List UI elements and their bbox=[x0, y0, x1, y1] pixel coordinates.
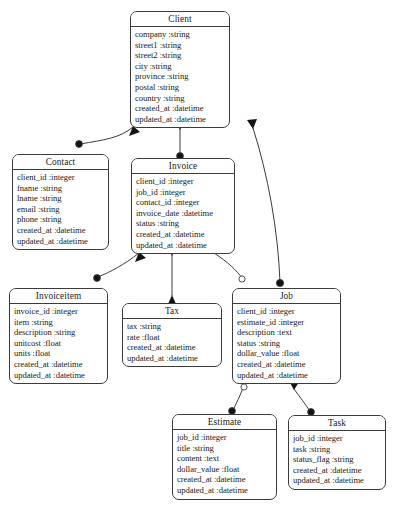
entity-job-title: Job bbox=[233, 289, 340, 304]
entity-contact[interactable]: Contact client_id :integer fname :string… bbox=[12, 154, 109, 250]
marker-dot-job bbox=[276, 279, 283, 286]
field-row: postal :string bbox=[135, 82, 229, 93]
field-row: status :string bbox=[237, 338, 340, 349]
entity-invoice-title: Invoice bbox=[132, 159, 234, 174]
marker-circle-job-topleft bbox=[239, 276, 245, 282]
edge-client-job bbox=[253, 128, 280, 282]
field-row: content :text bbox=[177, 453, 276, 464]
field-row: task :string bbox=[293, 444, 385, 455]
field-row: status :string bbox=[136, 218, 234, 229]
field-row: created_at :datetime bbox=[17, 225, 108, 236]
field-row: updated_at :datetime bbox=[135, 114, 229, 125]
field-row: lname :string bbox=[17, 193, 108, 204]
field-row: email :string bbox=[17, 204, 108, 215]
entity-tax[interactable]: Tax tax :string rate :float created_at :… bbox=[122, 303, 222, 367]
edge-job-task bbox=[294, 389, 310, 411]
field-row: updated_at :datetime bbox=[127, 353, 221, 364]
marker-dot-contact bbox=[76, 141, 83, 148]
field-row: job_id :integer bbox=[136, 187, 234, 198]
field-row: updated_at :datetime bbox=[237, 370, 340, 381]
field-row: tax :string bbox=[127, 321, 221, 332]
edge-invoice-job bbox=[214, 253, 243, 279]
field-row: created_at :datetime bbox=[293, 465, 385, 476]
edge-client-contact bbox=[80, 127, 133, 144]
field-row: rate :float bbox=[127, 332, 221, 343]
edge-invoice-invoiceitem bbox=[98, 253, 139, 277]
entity-tax-fields: tax :string rate :float created_at :date… bbox=[123, 319, 221, 366]
field-row: job_id :integer bbox=[177, 432, 276, 443]
field-row: client_id :integer bbox=[136, 176, 234, 187]
field-row: dollar_value :float bbox=[237, 348, 340, 359]
field-row: job_id :integer bbox=[293, 433, 385, 444]
field-row: province :string bbox=[135, 71, 229, 82]
entity-estimate-title: Estimate bbox=[173, 415, 276, 430]
field-row: updated_at :datetime bbox=[293, 475, 385, 486]
field-row: phone :string bbox=[17, 214, 108, 225]
field-row: status_flag :string bbox=[293, 454, 385, 465]
entity-task-fields: job_id :integer task :string status_flag… bbox=[289, 431, 385, 489]
field-row: updated_at :datetime bbox=[14, 370, 107, 381]
field-row: updated_at :datetime bbox=[177, 485, 276, 496]
marker-dot-invoiceitem bbox=[94, 275, 101, 282]
entity-task-title: Task bbox=[289, 416, 385, 431]
field-row: street1 :string bbox=[135, 40, 229, 51]
entity-estimate[interactable]: Estimate job_id :integer title :string c… bbox=[172, 414, 277, 500]
field-row: company :string bbox=[135, 29, 229, 40]
field-row: city :string bbox=[135, 61, 229, 72]
field-row: title :string bbox=[177, 443, 276, 454]
field-row: description :string bbox=[14, 327, 107, 338]
field-row: client_id :integer bbox=[17, 172, 108, 183]
entity-job-fields: client_id :integer estimate_id :integer … bbox=[233, 304, 340, 383]
field-row: units :float bbox=[14, 348, 107, 359]
entity-client-fields: company :string street1 :string street2 … bbox=[131, 27, 229, 127]
entity-contact-fields: client_id :integer fname :string lname :… bbox=[13, 170, 108, 249]
er-diagram-canvas: Client company :string street1 :string s… bbox=[0, 0, 393, 506]
field-row: client_id :integer bbox=[237, 306, 340, 317]
field-row: created_at :datetime bbox=[14, 359, 107, 370]
entity-estimate-fields: job_id :integer title :string content :t… bbox=[173, 430, 276, 499]
entity-client[interactable]: Client company :string street1 :string s… bbox=[130, 11, 230, 128]
entity-invoiceitem-fields: invoice_id :integer item :string descrip… bbox=[10, 304, 107, 383]
edge-job-estimate bbox=[233, 388, 243, 410]
entity-job[interactable]: Job client_id :integer estimate_id :inte… bbox=[232, 288, 341, 384]
entity-contact-title: Contact bbox=[13, 155, 108, 170]
field-row: created_at :datetime bbox=[136, 229, 234, 240]
entity-task[interactable]: Task job_id :integer task :string status… bbox=[288, 415, 386, 490]
field-row: item :string bbox=[14, 317, 107, 328]
entity-client-title: Client bbox=[131, 12, 229, 27]
field-row: country :string bbox=[135, 93, 229, 104]
marker-arrow-client-job bbox=[247, 119, 257, 129]
field-row: created_at :datetime bbox=[127, 342, 221, 353]
entity-invoice[interactable]: Invoice client_id :integer job_id :integ… bbox=[131, 158, 235, 254]
field-row: invoice_id :integer bbox=[14, 306, 107, 317]
field-row: dollar_value :float bbox=[177, 464, 276, 475]
field-row: invoice_date :datetime bbox=[136, 208, 234, 219]
field-row: updated_at :datetime bbox=[136, 240, 234, 251]
marker-circle-job-bottomleft bbox=[241, 384, 247, 390]
field-row: created_at :datetime bbox=[237, 359, 340, 370]
field-row: fname :string bbox=[17, 183, 108, 194]
field-row: street2 :string bbox=[135, 50, 229, 61]
field-row: created_at :datetime bbox=[135, 103, 229, 114]
field-row: contact_id :integer bbox=[136, 197, 234, 208]
field-row: created_at :datetime bbox=[177, 474, 276, 485]
field-row: updated_at :datetime bbox=[17, 236, 108, 247]
field-row: description :text bbox=[237, 327, 340, 338]
entity-invoice-fields: client_id :integer job_id :integer conta… bbox=[132, 174, 234, 253]
entity-invoiceitem[interactable]: Invoiceitem invoice_id :integer item :st… bbox=[9, 288, 108, 384]
field-row: estimate_id :integer bbox=[237, 317, 340, 328]
field-row: unitcost :float bbox=[14, 338, 107, 349]
entity-tax-title: Tax bbox=[123, 304, 221, 319]
entity-invoiceitem-title: Invoiceitem bbox=[10, 289, 107, 304]
